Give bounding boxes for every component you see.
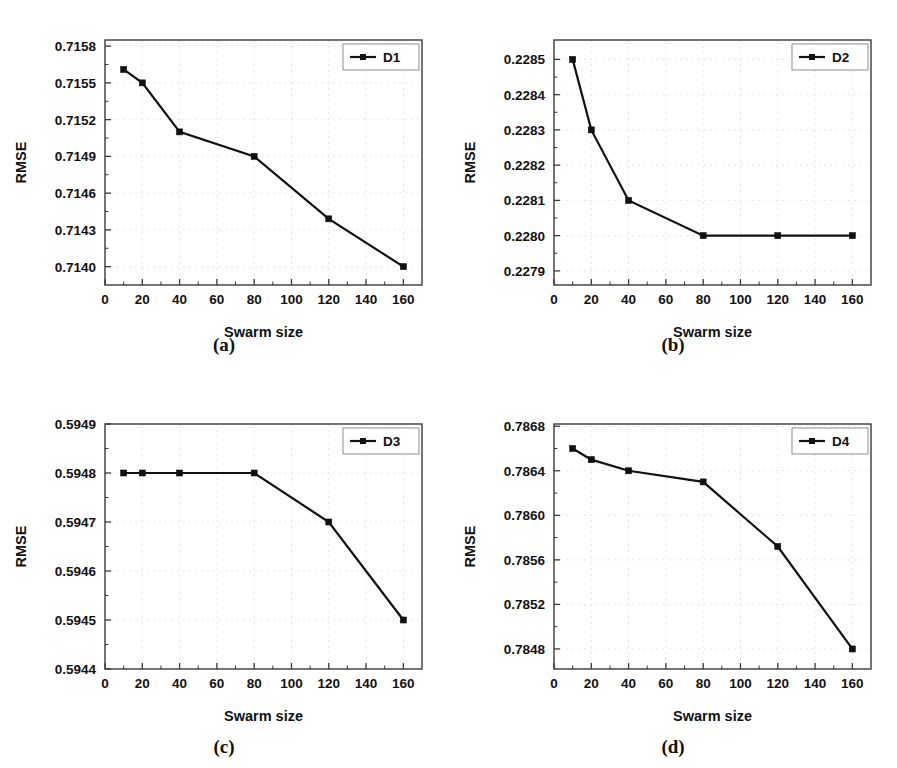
x-tick-label: 0 (101, 292, 109, 307)
y-tick-label: 0.5944 (55, 662, 97, 677)
data-point-marker (177, 470, 183, 476)
plot-d: 0204060801001201401600.78480.78520.78560… (449, 384, 897, 768)
x-tick-label: 80 (696, 292, 711, 307)
x-tick-label: 20 (135, 676, 150, 691)
y-tick-label: 0.5947 (55, 515, 96, 530)
data-point-marker (570, 446, 576, 452)
x-tick-label: 120 (317, 676, 340, 691)
x-tick-label: 100 (729, 676, 752, 691)
plot-c: 0204060801001201401600.59440.59450.59460… (0, 384, 448, 768)
y-tick-label: 0.2280 (504, 229, 545, 244)
x-tick-label: 100 (280, 676, 303, 691)
y-tick-label: 0.7146 (55, 186, 97, 201)
data-point-marker (251, 470, 257, 476)
caption-c: (c) (0, 736, 448, 758)
data-point-marker (400, 617, 406, 623)
x-tick-label: 120 (317, 292, 340, 307)
data-point-marker (326, 519, 332, 525)
y-tick-label: 0.7155 (55, 76, 97, 91)
legend-label: D4 (832, 434, 850, 449)
series-line-D3 (124, 473, 404, 620)
series-line-D1 (124, 69, 404, 266)
x-tick-label: 80 (247, 292, 262, 307)
x-tick-label: 140 (355, 676, 378, 691)
data-point-marker (626, 197, 632, 203)
x-tick-label: 0 (550, 676, 558, 691)
data-point-marker (700, 233, 706, 239)
y-tick-label: 0.5948 (55, 466, 97, 481)
legend: D1 (343, 44, 419, 70)
legend: D2 (792, 44, 868, 70)
x-tick-label: 0 (550, 292, 558, 307)
x-tick-label: 120 (766, 676, 789, 691)
x-tick-label: 60 (209, 676, 224, 691)
x-tick-label: 20 (584, 676, 599, 691)
x-tick-label: 100 (280, 292, 303, 307)
legend-label: D1 (383, 50, 401, 65)
y-tick-label: 0.5946 (55, 564, 97, 579)
panel-d: 0204060801001201401600.78480.78520.78560… (449, 384, 897, 768)
data-point-marker (139, 470, 145, 476)
y-tick-label: 0.2283 (504, 123, 546, 138)
y-tick-label: 0.7864 (504, 464, 546, 479)
y-axis-title: RMSE (462, 141, 478, 183)
x-tick-label: 80 (696, 676, 711, 691)
y-axis-title: RMSE (462, 525, 478, 567)
y-axis-title: RMSE (13, 141, 29, 183)
y-tick-label: 0.2282 (504, 158, 545, 173)
x-tick-label: 40 (621, 292, 636, 307)
x-tick-label: 160 (392, 676, 415, 691)
caption-d: (d) (449, 736, 897, 758)
plot-a: 0204060801001201401600.71400.71430.71460… (0, 0, 448, 384)
data-point-marker (700, 479, 706, 485)
data-point-marker (121, 470, 127, 476)
y-tick-label: 0.2279 (504, 264, 545, 279)
x-tick-label: 120 (766, 292, 789, 307)
data-point-marker (139, 80, 145, 86)
y-tick-label: 0.7848 (504, 642, 546, 657)
data-point-marker (775, 233, 781, 239)
caption-a: (a) (0, 334, 448, 356)
y-tick-label: 0.2285 (504, 52, 546, 67)
x-tick-label: 40 (621, 676, 636, 691)
legend: D4 (792, 428, 868, 454)
legend-label: D3 (383, 434, 401, 449)
legend: D3 (343, 428, 419, 454)
x-tick-label: 160 (841, 292, 864, 307)
x-tick-label: 80 (247, 676, 262, 691)
x-tick-label: 160 (841, 676, 864, 691)
caption-b: (b) (449, 334, 897, 356)
y-tick-label: 0.7152 (55, 113, 96, 128)
series-line-D4 (573, 449, 853, 649)
data-point-marker (626, 468, 632, 474)
x-tick-label: 20 (584, 292, 599, 307)
data-point-marker (588, 457, 594, 463)
y-tick-label: 0.7149 (55, 149, 96, 164)
y-tick-label: 0.2284 (504, 88, 546, 103)
data-point-marker (570, 56, 576, 62)
x-tick-label: 40 (172, 292, 187, 307)
x-axis-title: Swarm size (224, 708, 303, 724)
x-tick-label: 0 (101, 676, 109, 691)
y-tick-label: 0.7852 (504, 597, 545, 612)
y-tick-label: 0.5945 (55, 613, 97, 628)
data-point-marker (775, 544, 781, 550)
x-tick-label: 60 (209, 292, 224, 307)
y-tick-label: 0.7856 (504, 553, 546, 568)
x-tick-label: 100 (729, 292, 752, 307)
x-tick-label: 140 (355, 292, 378, 307)
data-point-marker (849, 233, 855, 239)
y-tick-label: 0.7860 (504, 508, 545, 523)
y-tick-label: 0.7143 (55, 223, 97, 238)
x-tick-label: 160 (392, 292, 415, 307)
data-point-marker (121, 66, 127, 72)
x-tick-label: 20 (135, 292, 150, 307)
y-tick-label: 0.7158 (55, 39, 97, 54)
x-tick-label: 40 (172, 676, 187, 691)
data-point-marker (588, 127, 594, 133)
y-axis-title: RMSE (13, 525, 29, 567)
legend-label: D2 (832, 50, 849, 65)
x-axis-title: Swarm size (673, 708, 752, 724)
y-tick-label: 0.5949 (55, 417, 96, 432)
panel-b: 0204060801001201401600.22790.22800.22810… (449, 0, 897, 384)
